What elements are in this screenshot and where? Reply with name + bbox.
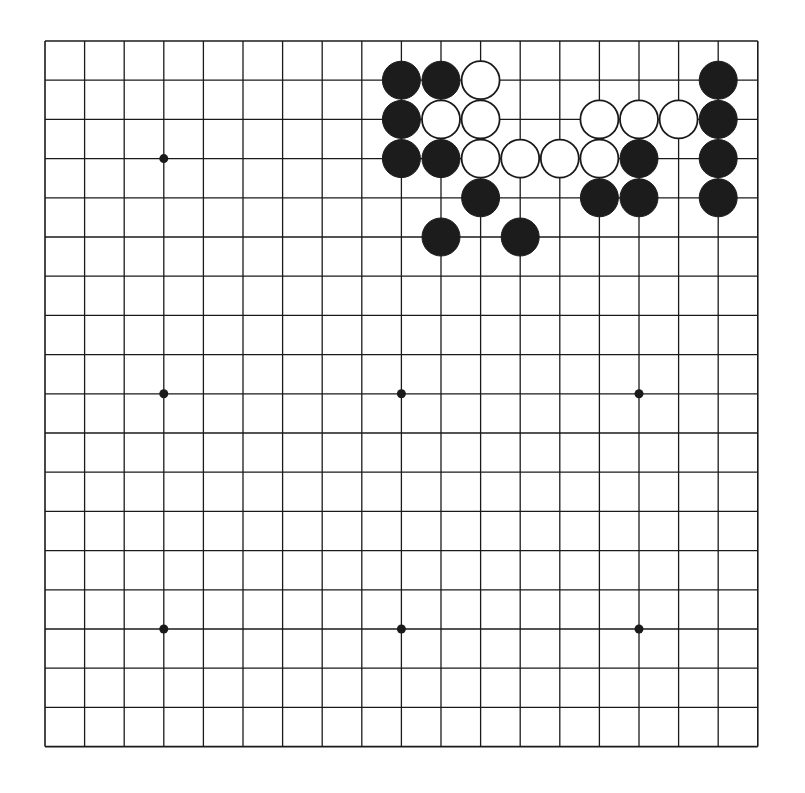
board-intersection[interactable] bbox=[421, 649, 461, 688]
board-intersection[interactable] bbox=[144, 374, 184, 413]
board-intersection[interactable] bbox=[659, 61, 699, 100]
board-intersection[interactable] bbox=[382, 688, 422, 727]
board-intersection[interactable] bbox=[104, 570, 144, 609]
board-intersection[interactable] bbox=[302, 217, 342, 256]
board-intersection[interactable] bbox=[580, 21, 620, 60]
board-intersection[interactable] bbox=[104, 727, 144, 766]
board-intersection[interactable] bbox=[184, 727, 224, 766]
board-intersection[interactable] bbox=[104, 413, 144, 452]
board-intersection[interactable] bbox=[104, 453, 144, 492]
board-intersection[interactable] bbox=[659, 688, 699, 727]
board-intersection[interactable] bbox=[263, 21, 303, 60]
board-intersection[interactable] bbox=[738, 609, 778, 648]
board-intersection[interactable] bbox=[144, 21, 184, 60]
board-intersection[interactable] bbox=[302, 21, 342, 60]
board-intersection[interactable] bbox=[738, 531, 778, 570]
board-intersection[interactable] bbox=[302, 139, 342, 178]
board-intersection[interactable] bbox=[302, 727, 342, 766]
board-intersection[interactable] bbox=[104, 649, 144, 688]
board-intersection[interactable] bbox=[619, 413, 659, 452]
board-intersection[interactable] bbox=[659, 335, 699, 374]
board-intersection[interactable] bbox=[65, 688, 105, 727]
board-intersection[interactable] bbox=[144, 531, 184, 570]
board-intersection[interactable] bbox=[619, 296, 659, 335]
board-intersection[interactable] bbox=[619, 61, 659, 100]
board-intersection[interactable] bbox=[65, 21, 105, 60]
board-intersection[interactable] bbox=[65, 531, 105, 570]
board-intersection[interactable] bbox=[461, 257, 501, 296]
board-intersection[interactable] bbox=[65, 139, 105, 178]
board-intersection[interactable] bbox=[223, 21, 263, 60]
board-intersection[interactable] bbox=[619, 21, 659, 60]
board-intersection[interactable] bbox=[659, 727, 699, 766]
board-intersection[interactable] bbox=[144, 413, 184, 452]
board-intersection[interactable] bbox=[223, 61, 263, 100]
board-intersection[interactable] bbox=[382, 178, 422, 217]
board-intersection[interactable] bbox=[302, 453, 342, 492]
board-intersection[interactable] bbox=[698, 531, 738, 570]
board-intersection[interactable] bbox=[738, 100, 778, 139]
board-intersection[interactable] bbox=[144, 296, 184, 335]
board-intersection[interactable] bbox=[302, 257, 342, 296]
board-intersection[interactable] bbox=[461, 413, 501, 452]
board-intersection[interactable] bbox=[698, 609, 738, 648]
board-intersection[interactable] bbox=[382, 453, 422, 492]
board-intersection[interactable] bbox=[144, 649, 184, 688]
board-intersection[interactable] bbox=[540, 727, 580, 766]
board-intersection[interactable] bbox=[738, 727, 778, 766]
board-intersection[interactable] bbox=[144, 257, 184, 296]
board-intersection[interactable] bbox=[65, 61, 105, 100]
board-intersection[interactable] bbox=[619, 217, 659, 256]
board-intersection[interactable] bbox=[461, 649, 501, 688]
board-intersection[interactable] bbox=[223, 492, 263, 531]
board-intersection[interactable] bbox=[659, 492, 699, 531]
board-intersection[interactable] bbox=[184, 217, 224, 256]
board-intersection[interactable] bbox=[698, 453, 738, 492]
board-intersection[interactable] bbox=[184, 335, 224, 374]
board-intersection[interactable] bbox=[302, 531, 342, 570]
board-intersection[interactable] bbox=[184, 374, 224, 413]
board-intersection[interactable] bbox=[580, 453, 620, 492]
board-intersection[interactable] bbox=[698, 727, 738, 766]
board-intersection[interactable] bbox=[421, 531, 461, 570]
board-intersection[interactable] bbox=[223, 688, 263, 727]
board-intersection[interactable] bbox=[302, 374, 342, 413]
board-intersection[interactable] bbox=[104, 100, 144, 139]
board-intersection[interactable] bbox=[461, 570, 501, 609]
board-intersection[interactable] bbox=[263, 296, 303, 335]
board-intersection[interactable] bbox=[342, 492, 382, 531]
board-intersection[interactable] bbox=[619, 257, 659, 296]
board-intersection[interactable] bbox=[263, 217, 303, 256]
board-intersection[interactable] bbox=[263, 453, 303, 492]
board-intersection[interactable] bbox=[738, 453, 778, 492]
board-intersection[interactable] bbox=[223, 570, 263, 609]
board-intersection[interactable] bbox=[342, 609, 382, 648]
board-intersection[interactable] bbox=[461, 335, 501, 374]
board-intersection[interactable] bbox=[65, 727, 105, 766]
board-intersection[interactable] bbox=[104, 217, 144, 256]
board-intersection[interactable] bbox=[25, 570, 65, 609]
board-intersection[interactable] bbox=[144, 178, 184, 217]
board-intersection[interactable] bbox=[382, 570, 422, 609]
board-intersection[interactable] bbox=[461, 531, 501, 570]
board-intersection[interactable] bbox=[104, 335, 144, 374]
board-intersection[interactable] bbox=[342, 217, 382, 256]
board-intersection[interactable] bbox=[223, 453, 263, 492]
board-intersection[interactable] bbox=[382, 296, 422, 335]
board-intersection[interactable] bbox=[659, 453, 699, 492]
board-intersection[interactable] bbox=[500, 21, 540, 60]
board-intersection[interactable] bbox=[223, 100, 263, 139]
board-intersection[interactable] bbox=[738, 296, 778, 335]
board-intersection[interactable] bbox=[382, 257, 422, 296]
board-intersection[interactable] bbox=[302, 413, 342, 452]
board-intersection[interactable] bbox=[659, 531, 699, 570]
board-intersection[interactable] bbox=[738, 61, 778, 100]
board-intersection[interactable] bbox=[382, 374, 422, 413]
board-intersection[interactable] bbox=[263, 139, 303, 178]
board-intersection[interactable] bbox=[342, 100, 382, 139]
board-intersection[interactable] bbox=[382, 492, 422, 531]
board-intersection[interactable] bbox=[540, 100, 580, 139]
board-intersection[interactable] bbox=[223, 649, 263, 688]
board-intersection[interactable] bbox=[698, 257, 738, 296]
board-intersection[interactable] bbox=[223, 257, 263, 296]
